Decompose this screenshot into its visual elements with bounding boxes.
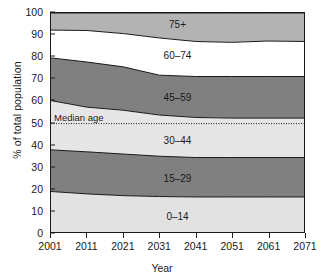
y-tick-mark [50, 188, 55, 189]
x-tick-label: 2031 [148, 240, 171, 252]
y-tick-mark [50, 210, 55, 211]
y-tick-label: 10 [31, 205, 43, 217]
x-tick-label: 2011 [75, 240, 98, 252]
population-age-structure-chart: % of total population 010203040506070809… [0, 0, 324, 279]
y-tick-label: 60 [31, 94, 43, 106]
x-tick-mark [159, 233, 160, 238]
x-tick-label: 2021 [111, 240, 134, 252]
x-tick-label: 2051 [220, 240, 243, 252]
x-tick-mark [232, 233, 233, 238]
y-tick-mark [50, 34, 55, 35]
y-tick-label: 100 [25, 6, 43, 18]
y-tick-label: 40 [31, 139, 43, 151]
y-tick-label: 20 [31, 183, 43, 195]
x-axis-title: Year [0, 262, 324, 274]
x-tick-mark [305, 233, 306, 238]
y-axis-title: % of total population [11, 25, 23, 195]
area-band-0-14 [51, 191, 304, 232]
y-tick-label: 70 [31, 72, 43, 84]
median-age-label: Median age [54, 112, 104, 123]
y-tick-label: 30 [31, 161, 43, 173]
y-tick-mark [50, 100, 55, 101]
x-tick-label: 2001 [38, 240, 61, 252]
x-tick-label: 2071 [293, 240, 316, 252]
y-tick-label: 90 [31, 28, 43, 40]
y-tick-mark [50, 56, 55, 57]
y-tick-mark [50, 144, 55, 145]
x-tick-mark [50, 233, 51, 238]
y-tick-mark [50, 78, 55, 79]
x-tick-mark [196, 233, 197, 238]
y-tick-mark [50, 166, 55, 167]
y-tick-label: 50 [31, 117, 43, 129]
x-tick-mark [269, 233, 270, 238]
x-tick-mark [123, 233, 124, 238]
y-tick-label: 0 [37, 227, 43, 239]
x-tick-label: 2041 [184, 240, 207, 252]
y-tick-label: 80 [31, 50, 43, 62]
y-tick-mark [50, 12, 55, 13]
x-tick-label: 2061 [257, 240, 280, 252]
x-tick-mark [86, 233, 87, 238]
